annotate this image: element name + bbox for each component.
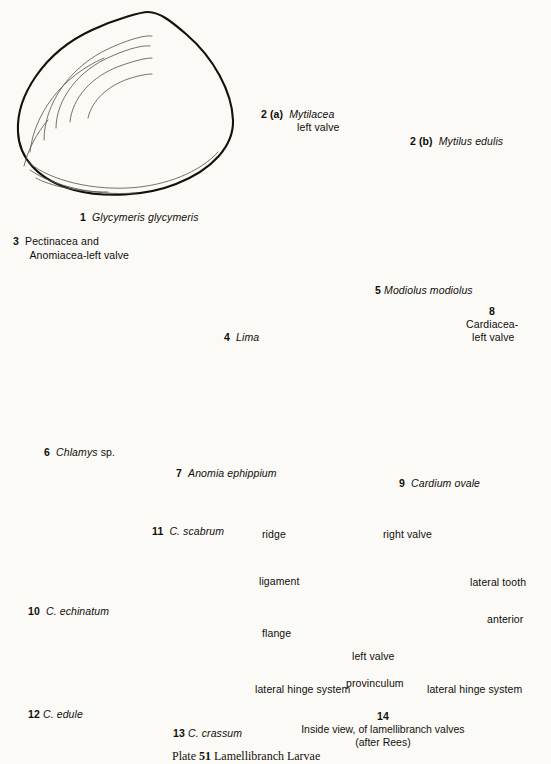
callout-lateral-hinge-system-right: lateral hinge system [427,683,522,696]
figure-14-attribution: (after Rees) [305,723,455,749]
plate-caption-prefix: Plate [172,749,199,763]
figure-6-suffix: sp. [101,446,115,458]
callout-ligament: ligament [259,575,300,588]
figure-10-label: 10 C. echinatum [22,592,109,617]
figure-5-label: 5 Modiolus modiolus [369,271,473,296]
figure-5-name: Modiolus modiolus [384,284,473,296]
figure-7-name: Anomia ephippium [188,467,277,479]
figure-11-label: 11 C. scabrum [146,512,224,537]
figure-12-number: 12 [28,708,40,720]
figure-3-line2: Anomiacea-left valve [29,249,128,261]
plate-caption-text: Lamellibranch Larvae [211,749,320,763]
figure-2a-line2: left valve [297,121,339,133]
callout-ridge: ridge [262,528,286,541]
callout-anterior: anterior [487,613,523,626]
plate-caption-number: 51 [199,749,211,763]
callout-right-valve: right valve [383,528,432,541]
figure-10-number: 10 [28,605,40,617]
figure-2b-label: 2 (b) Mytilus edulis [404,122,503,147]
figure-8-line2: left valve [472,331,514,343]
figure-2a-label-line2: left valve [291,108,339,133]
figure-4-name: Lima [236,331,259,343]
figure-12-name: C. edule [43,708,83,720]
figure-4-label: 4 Lima [218,318,259,343]
figure-3-label-line2: Anomiacea-left valve [24,236,129,261]
callout-lateral-hinge-system-left: lateral hinge system [255,683,350,696]
figure-7-label: 7 Anomia ephippium [170,454,277,479]
callout-flange: flange [262,627,291,640]
callout-provinculum: provinculum [346,677,404,690]
figure-12-label: 12 C. edule [22,695,83,720]
figure-6-label: 6 Chlamys sp. [38,433,115,458]
figure-8-label-line2: left valve [466,318,514,343]
figure-9-label: 9 Cardium ovale [393,464,480,489]
figure-2a-number: 2 (a) [261,108,283,120]
figure-11-number: 11 [152,525,163,537]
figure-9-name: Cardium ovale [411,477,480,489]
figure-1-label: 1 Glycymeris glycymeris [74,198,199,223]
figure-2b-number: 2 (b) [410,135,433,147]
figure-1-name: Glycymeris glycymeris [92,211,199,223]
figure-2b-name: Mytilus edulis [439,135,503,147]
figure-11-name: C. scabrum [169,525,224,537]
plate-caption: Plate 51 Lamellibranch Larvae [166,734,320,764]
callout-left-valve: left valve [352,650,394,663]
figure-1-glycymeris-shell [18,12,233,195]
callout-lateral-tooth: lateral tooth [470,576,526,589]
figure-10-name: C. echinatum [46,605,109,617]
figure-6-name: Chlamys [56,446,98,458]
